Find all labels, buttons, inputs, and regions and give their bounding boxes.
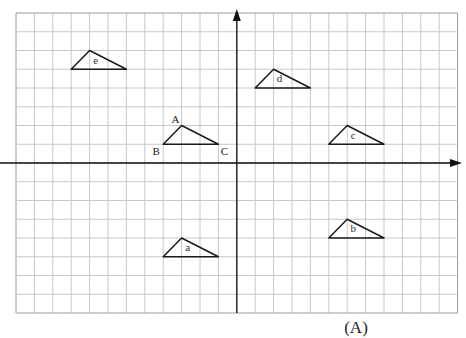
- coordinate-axes: [0, 9, 462, 313]
- triangle-c: c: [329, 126, 384, 145]
- triangle-label: b: [350, 222, 356, 234]
- vertex-label-b: B: [153, 145, 160, 157]
- triangle-shape: [329, 219, 384, 238]
- triangle-shape: [329, 126, 384, 145]
- vertex-label-c: C: [221, 145, 228, 157]
- triangle-shape: [163, 126, 218, 145]
- triangle-shape: [163, 238, 218, 257]
- triangle-a: a: [163, 238, 218, 257]
- triangle-abc: BAC: [153, 113, 229, 158]
- triangle-e: e: [71, 51, 126, 70]
- triangle-label: d: [277, 72, 283, 84]
- vertex-label-a: A: [172, 113, 180, 125]
- triangle-shape: [255, 69, 310, 88]
- x-axis-arrow-icon: [450, 159, 462, 167]
- triangle-shape: [71, 51, 126, 70]
- triangle-b: b: [329, 219, 384, 238]
- triangle-label: a: [185, 241, 190, 253]
- triangle-label: c: [351, 129, 356, 141]
- triangle-d: d: [255, 69, 310, 88]
- triangles: BACedcba: [71, 51, 384, 257]
- figure-caption: (A): [339, 318, 373, 338]
- y-axis-arrow-icon: [233, 9, 241, 21]
- triangle-label: e: [93, 54, 98, 66]
